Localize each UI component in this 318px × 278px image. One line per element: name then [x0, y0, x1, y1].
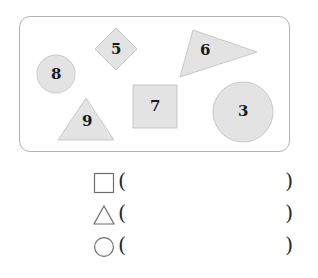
circle-outline-icon [92, 234, 116, 258]
answer-row-square: ( ) [0, 166, 318, 198]
square-outline-icon [92, 170, 116, 194]
answer-open-paren-square: ( [118, 168, 126, 194]
answer-blank-triangle[interactable] [132, 204, 284, 224]
answer-row-triangle: ( ) [0, 198, 318, 230]
shape-collection-panel [19, 16, 290, 152]
answer-close-paren-circle: ) [285, 232, 293, 258]
answer-close-paren-triangle: ) [285, 200, 293, 226]
answer-list: ( ) ( ) ( ) [0, 166, 318, 262]
shape-label-square-7: 7 [150, 99, 160, 114]
shape-label-triangle-9: 9 [82, 114, 92, 129]
triangle-outline-icon [92, 202, 116, 226]
shape-label-triangle-6: 6 [200, 43, 210, 58]
answer-blank-circle[interactable] [132, 236, 284, 256]
shape-label-circle-3: 3 [238, 104, 248, 119]
answer-open-paren-circle: ( [118, 232, 126, 258]
shape-label-diamond-5: 5 [111, 42, 121, 57]
shape-label-circle-8: 8 [51, 67, 61, 82]
answer-open-paren-triangle: ( [118, 200, 126, 226]
answer-blank-square[interactable] [132, 172, 284, 192]
answer-row-circle: ( ) [0, 230, 318, 262]
answer-close-paren-square: ) [285, 168, 293, 194]
